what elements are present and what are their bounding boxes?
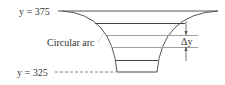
arc-label: Circular arc (47, 37, 95, 48)
top-level-label: y = 375 (19, 6, 50, 17)
bottom-level-label: y = 325 (17, 67, 48, 78)
arc-leader-line (98, 33, 104, 42)
delta-y-label: Δy (181, 36, 192, 47)
delta-arrowhead-down-icon (184, 31, 187, 35)
tank-cross-section-diagram: Δy y = 375 Circular arc y = 325 (0, 0, 225, 85)
